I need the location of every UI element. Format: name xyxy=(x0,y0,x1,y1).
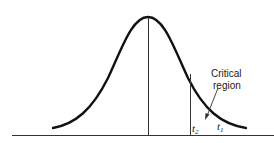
t1-label: t1 xyxy=(217,120,224,134)
critical-label-line1: Critical xyxy=(211,68,242,79)
arrow-head-icon xyxy=(205,113,210,120)
normal-curve-diagram: Critical region t2 t1 xyxy=(0,0,274,143)
t2-label: t2 xyxy=(192,122,199,136)
critical-label-line2: region xyxy=(213,80,241,91)
